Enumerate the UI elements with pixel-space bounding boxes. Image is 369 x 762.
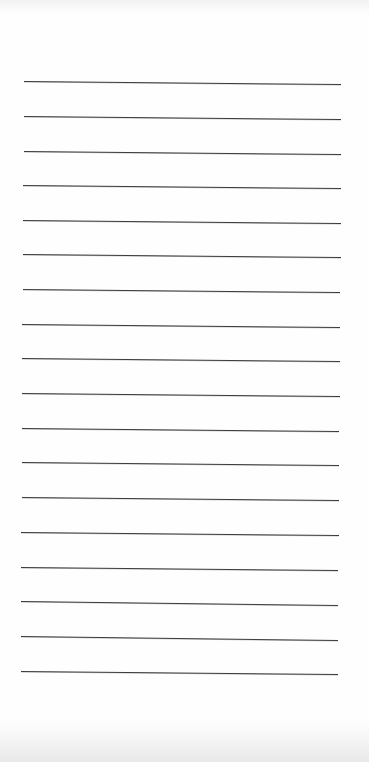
ruled-line bbox=[21, 567, 338, 571]
ruled-line bbox=[23, 254, 341, 258]
ruled-line bbox=[22, 462, 339, 466]
ruled-line bbox=[23, 220, 341, 224]
scan-shading-bottom bbox=[0, 722, 369, 762]
ruled-line bbox=[22, 358, 340, 362]
ruled-line bbox=[21, 532, 339, 536]
ruled-line bbox=[24, 116, 341, 120]
ruled-line bbox=[21, 601, 338, 606]
ruled-line bbox=[22, 428, 339, 432]
ruled-lines bbox=[0, 0, 369, 762]
ruled-line bbox=[24, 151, 341, 155]
ruled-line bbox=[22, 393, 340, 397]
ruled-line bbox=[22, 497, 339, 501]
ruled-line bbox=[21, 636, 338, 641]
ruled-line bbox=[23, 289, 340, 293]
ruled-line bbox=[24, 81, 341, 85]
ruled-line bbox=[22, 324, 340, 328]
ruled-line bbox=[21, 671, 338, 675]
lined-paper-sheet bbox=[0, 0, 369, 762]
ruled-line bbox=[23, 185, 341, 189]
